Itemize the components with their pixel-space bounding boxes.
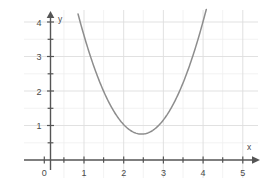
x-tick-label-1: 1 — [81, 168, 86, 178]
x-tick-label-0: 0 — [42, 168, 47, 178]
x-tick-label-4: 4 — [201, 168, 206, 178]
y-tick-label-1: 1 — [36, 121, 41, 131]
y-tick-label-4: 4 — [36, 18, 41, 28]
x-tick-label-5: 5 — [240, 168, 245, 178]
x-tick-label-2: 2 — [121, 168, 126, 178]
parabola-plot: 0 1 2 3 4 5 1 2 3 4 x y — [0, 0, 270, 193]
y-tick-label-3: 3 — [36, 52, 41, 62]
plot-background — [0, 0, 270, 193]
y-tick-label-2: 2 — [36, 87, 41, 97]
graph-container: 0 1 2 3 4 5 1 2 3 4 x y — [0, 0, 270, 193]
x-tick-label-3: 3 — [161, 168, 166, 178]
